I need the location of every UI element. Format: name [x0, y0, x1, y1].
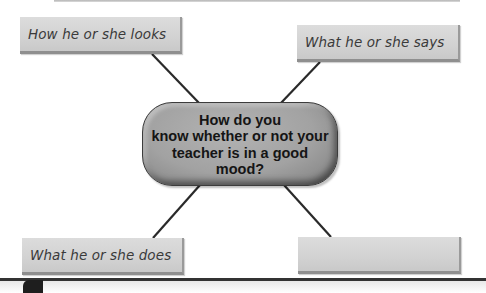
node-blank: [298, 237, 461, 274]
connector-top-left: [152, 54, 200, 104]
bottom-margin: [0, 281, 486, 293]
central-question-node: How do you know whether or not your teac…: [142, 102, 338, 186]
node-label: What he or she says: [305, 34, 444, 50]
bottom-rule: [0, 278, 486, 281]
central-question-text: How do you know whether or not your teac…: [151, 112, 328, 178]
node-label: What he or she does: [30, 247, 171, 263]
node-what-he-or-she-says: What he or she says: [297, 25, 460, 62]
connector-bottom-left: [153, 185, 200, 238]
connector-top-right: [280, 62, 320, 104]
node-label: How he or she looks: [28, 26, 166, 42]
node-what-he-or-she-does: What he or she does: [22, 238, 184, 275]
connector-bottom-right: [284, 185, 331, 237]
bottom-tab-marker: [23, 280, 43, 293]
node-how-he-or-she-looks: How he or she looks: [20, 17, 182, 54]
